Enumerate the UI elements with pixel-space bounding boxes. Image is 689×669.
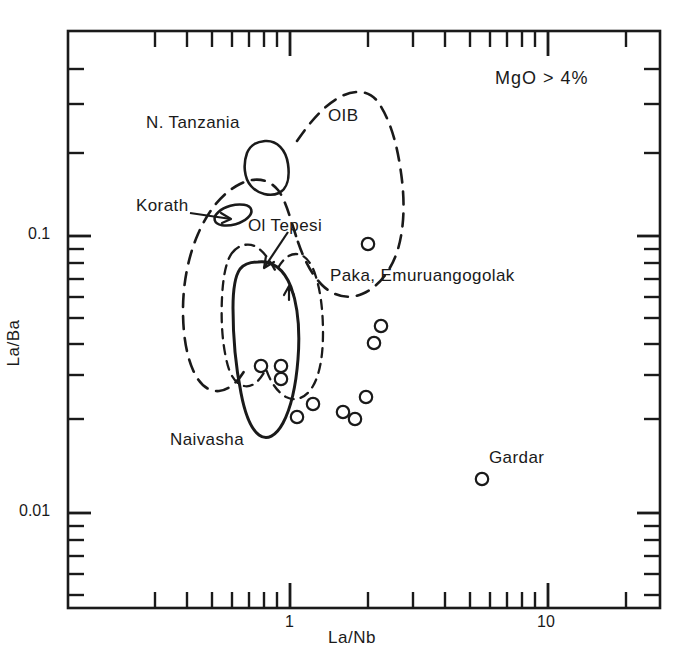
y-axis-ticks-right xyxy=(637,69,660,595)
label-korath: Korath xyxy=(136,196,189,216)
leader-korath xyxy=(190,213,231,223)
data-point xyxy=(255,360,267,372)
data-point xyxy=(362,238,374,250)
data-point xyxy=(349,413,361,425)
field-outline-n-tanzania xyxy=(245,141,289,195)
x-tick-label-1: 1 xyxy=(285,613,294,631)
data-point xyxy=(275,360,287,372)
data-point xyxy=(291,411,303,423)
y-axis-ticks-left xyxy=(68,69,91,595)
x-axis-ticks-top xyxy=(155,31,626,56)
x-axis-ticks-bottom xyxy=(155,583,626,608)
label-oib: OIB xyxy=(328,106,359,126)
mgo-note: MgO > 4% xyxy=(495,68,589,89)
label-ol-tepesi: Ol Tepesi xyxy=(248,216,322,236)
figure-canvas: 0.1 0.01 1 10 La/Nb La/Ba MgO > 4% N. Ta… xyxy=(0,0,689,669)
field-outline-oib xyxy=(183,92,404,391)
y-axis-title: La/Ba xyxy=(4,320,24,367)
label-naivasha: Naivasha xyxy=(170,430,244,450)
x-axis-title: La/Nb xyxy=(328,628,376,648)
plot-area xyxy=(0,0,689,669)
data-point xyxy=(337,406,349,418)
label-paka-emuruangogolak: Paka, Emuruangogolak xyxy=(330,266,515,286)
label-gardar: Gardar xyxy=(489,448,544,468)
label-n-tanzania: N. Tanzania xyxy=(146,113,240,133)
x-tick-label-10: 10 xyxy=(537,613,555,631)
data-point xyxy=(476,473,488,485)
y-tick-label-0.01: 0.01 xyxy=(19,502,50,520)
data-point xyxy=(375,320,387,332)
data-point xyxy=(275,373,287,385)
data-point xyxy=(368,337,380,349)
data-point xyxy=(307,398,319,410)
y-tick-label-0.1: 0.1 xyxy=(28,225,50,243)
data-point xyxy=(360,391,372,403)
